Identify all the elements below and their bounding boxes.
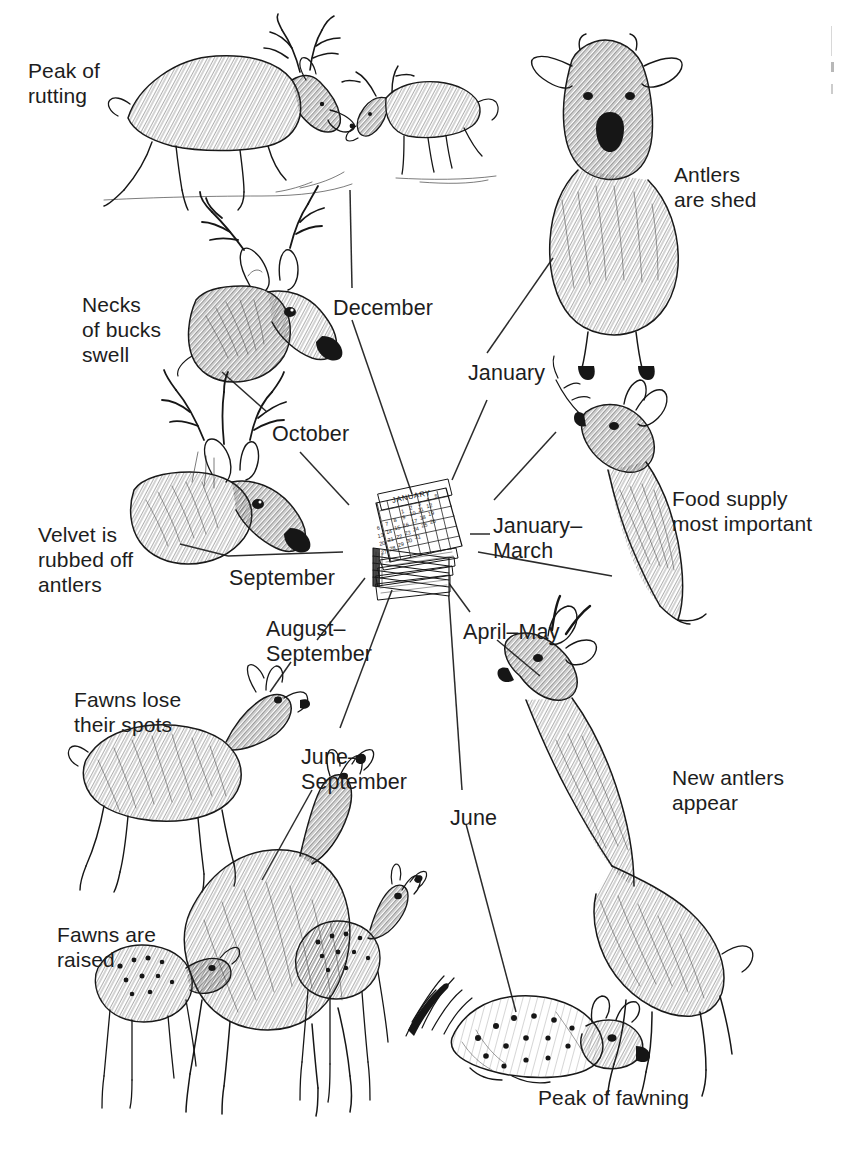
caption-food-supply: Food supply most important	[672, 486, 812, 536]
c-october	[300, 452, 349, 505]
illustration-buck-head-swollen-neck	[178, 186, 343, 382]
c-december	[352, 320, 412, 494]
svg-text:22: 22	[396, 533, 403, 540]
caption-fawns-are-raised: Fawns are raised	[57, 922, 156, 972]
month-label-september: September	[229, 566, 335, 591]
svg-text:10: 10	[409, 510, 416, 517]
c-september-b	[180, 544, 228, 556]
caption-peak-of-fawning: Peak of fawning	[538, 1085, 689, 1110]
svg-text:16: 16	[402, 521, 409, 528]
diagram-page: JANUARY 123 45 678	[0, 0, 842, 1156]
svg-text:6: 6	[376, 524, 380, 530]
svg-text:4: 4	[426, 497, 430, 503]
svg-text:9: 9	[402, 514, 406, 520]
svg-text:30: 30	[406, 537, 413, 544]
month-label-june: June	[450, 806, 497, 831]
svg-text:11: 11	[417, 506, 424, 513]
svg-text:2: 2	[409, 504, 413, 510]
illustration-buck-with-velvet-antlers	[497, 596, 752, 1098]
caption-antlers-are-shed: Antlers are shed	[674, 162, 757, 212]
svg-text:24: 24	[412, 525, 419, 532]
caption-necks-of-bucks-swell: Necks of bucks swell	[82, 292, 161, 367]
month-label-december: December	[333, 296, 433, 321]
illustration-rutting-bucks	[104, 14, 498, 210]
c-september	[228, 552, 343, 556]
svg-text:29: 29	[397, 541, 404, 548]
month-label-january-march: January– March	[493, 514, 582, 564]
svg-text:18: 18	[419, 514, 426, 521]
caption-peak-of-rutting: Peak of rutting	[28, 58, 100, 108]
calendar-day-numbers: 123 45 678 91011 12 131415 161718 19 202…	[371, 493, 447, 556]
svg-text:8: 8	[393, 517, 397, 523]
month-label-april-may: April–May	[463, 620, 560, 645]
caption-velvet-rubbed-off: Velvet is rubbed off antlers	[38, 522, 133, 597]
svg-text:20: 20	[379, 540, 386, 547]
svg-text:5: 5	[434, 493, 438, 499]
c-june-september-b	[262, 790, 312, 880]
calendar-illustration: JANUARY 123 45 678	[371, 479, 462, 600]
svg-text:17: 17	[411, 517, 418, 524]
svg-text:25: 25	[421, 521, 428, 528]
svg-text:1: 1	[400, 508, 404, 514]
svg-text:14: 14	[385, 528, 392, 535]
c-october-b	[222, 372, 267, 412]
caption-new-antlers-appear: New antlers appear	[672, 765, 784, 815]
svg-text:27: 27	[380, 548, 387, 555]
svg-text:23: 23	[404, 529, 411, 536]
svg-text:7: 7	[385, 521, 389, 527]
svg-text:3: 3	[417, 500, 421, 506]
c-january	[487, 258, 553, 353]
svg-text:31: 31	[414, 533, 421, 540]
illustration-newborn-fawn-bedded	[406, 976, 650, 1083]
svg-text:13: 13	[377, 532, 384, 539]
c-january-b	[452, 400, 487, 480]
c-june-b	[466, 824, 516, 1012]
svg-text:19: 19	[427, 510, 434, 517]
svg-text:26: 26	[429, 518, 436, 525]
illustration-buck-with-shed-antlers	[532, 34, 682, 380]
calendar-month-title: JANUARY	[391, 488, 432, 505]
month-label-january: January	[468, 361, 545, 386]
c-rutting	[350, 190, 352, 288]
cropped-page-edge	[824, 0, 842, 1156]
month-label-august-september: August– September	[266, 617, 372, 667]
caption-fawns-lose-spots: Fawns lose their spots	[74, 687, 181, 737]
svg-text:28: 28	[389, 545, 396, 552]
svg-text:12: 12	[426, 502, 433, 509]
month-label-june-september: June– September	[301, 745, 407, 795]
svg-text:15: 15	[394, 524, 401, 531]
illustration-buck-rubbing-velvet	[131, 370, 311, 564]
month-label-october: October	[272, 422, 349, 447]
c-june	[448, 584, 462, 790]
c-food	[494, 432, 556, 500]
svg-text:21: 21	[387, 536, 394, 543]
c-april-may-b	[497, 640, 540, 676]
c-april-may	[437, 567, 470, 612]
